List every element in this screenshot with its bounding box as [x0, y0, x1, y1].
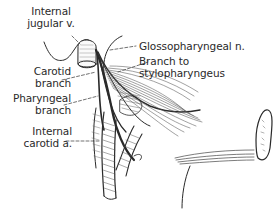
label-carotid-branch: Carotid branch	[8, 66, 71, 89]
label-glossopharyngeal-nerve: Glossopharyngeal n.	[139, 41, 245, 53]
label-pharyngeal-branch: Pharyngeal branch	[2, 93, 71, 116]
internal-carotid-artery	[102, 112, 116, 199]
label-internal-jugular-vein: Internal jugular v.	[22, 6, 80, 29]
styloid-process	[256, 110, 272, 160]
anatomical-diagram: Internal jugular v. Glossopharyngeal n. …	[0, 0, 279, 219]
internal-jugular-vein	[78, 40, 96, 68]
external-carotid-artery	[116, 126, 142, 176]
jugular-vessel-lower	[92, 108, 101, 168]
label-internal-carotid-artery: Internal carotid a.	[2, 126, 72, 149]
label-branch-to-stylopharyngeus: Branch to stylopharyngeus	[139, 56, 225, 79]
